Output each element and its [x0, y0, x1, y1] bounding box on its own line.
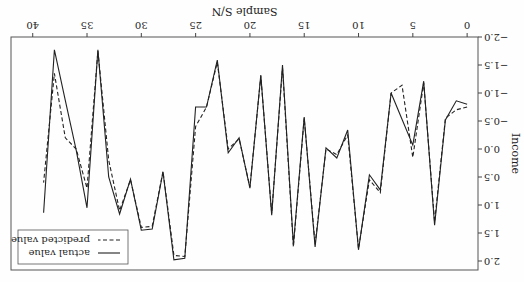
- line-chart-figure: 0510152025303540 −2.0−1.5−1.0−0.50.00.51…: [0, 0, 524, 282]
- y-tick-label: −1.0: [484, 88, 508, 99]
- x-tick-label: 15: [298, 20, 311, 31]
- y-tick-label: 2.0: [484, 256, 500, 267]
- y-axis-label: Income: [509, 133, 522, 174]
- x-tick-label: 20: [244, 20, 257, 31]
- actual-value-line: [44, 50, 468, 260]
- x-axis-label: Sample S/N: [211, 5, 277, 18]
- y-tick-label: 0.0: [484, 144, 500, 155]
- x-tick-label: 30: [135, 20, 148, 31]
- x-tick-label: 25: [189, 20, 202, 31]
- legend-label: actual value: [28, 248, 90, 259]
- y-axis-ticks: −2.0−1.5−1.0−0.50.00.51.01.52.0: [478, 32, 508, 267]
- x-tick-label: 40: [26, 20, 39, 31]
- series-layer: [44, 50, 468, 260]
- legend-label: predicted value: [11, 235, 90, 246]
- x-tick-label: 0: [464, 20, 470, 31]
- y-tick-label: 1.5: [484, 228, 500, 239]
- line-chart: 0510152025303540 −2.0−1.5−1.0−0.50.00.51…: [0, 0, 524, 282]
- legend: actual valuepredicted value: [11, 230, 128, 264]
- y-tick-label: 1.0: [484, 200, 500, 211]
- y-tick-label: −0.5: [484, 116, 508, 127]
- x-tick-label: 5: [410, 20, 416, 31]
- x-axis-ticks: 0510152025303540: [26, 20, 470, 37]
- x-tick-label: 35: [81, 20, 94, 31]
- x-tick-label: 10: [352, 20, 365, 31]
- y-tick-label: −2.0: [484, 32, 508, 43]
- y-tick-label: −1.5: [484, 60, 508, 71]
- y-tick-label: 0.5: [484, 172, 500, 183]
